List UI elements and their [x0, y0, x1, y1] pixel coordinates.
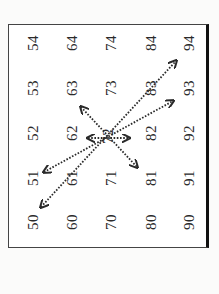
- grid-cell-64: 64: [62, 28, 82, 58]
- grid-cell-72: 72: [98, 121, 118, 151]
- grid-cell-90: 90: [179, 207, 199, 237]
- grid-cell-62: 62: [62, 118, 82, 148]
- grid-cell-50: 50: [23, 207, 43, 237]
- grid-cell-81: 81: [141, 163, 161, 193]
- grid-cell-83: 83: [141, 73, 161, 103]
- grid-cell-84: 84: [141, 28, 161, 58]
- grid-cell-52: 52: [23, 118, 43, 148]
- grid-cell-73: 73: [101, 73, 121, 103]
- grid-cell-63: 63: [62, 73, 82, 103]
- grid-cell-70: 70: [101, 207, 121, 237]
- grid-cell-91: 91: [179, 163, 199, 193]
- grid-cell-82: 82: [141, 118, 161, 148]
- grid-cell-74: 74: [101, 28, 121, 58]
- grid-cell-80: 80: [141, 207, 161, 237]
- grid-cell-94: 94: [179, 28, 199, 58]
- grid-cell-54: 54: [23, 28, 43, 58]
- grid-cell-93: 93: [179, 73, 199, 103]
- grid-cell-92: 92: [179, 118, 199, 148]
- grid-cell-61: 61: [62, 163, 82, 193]
- grid-cell-60: 60: [62, 207, 82, 237]
- grid-cell-71: 71: [101, 163, 121, 193]
- grid-cell-51: 51: [23, 163, 43, 193]
- grid-cell-53: 53: [23, 73, 43, 103]
